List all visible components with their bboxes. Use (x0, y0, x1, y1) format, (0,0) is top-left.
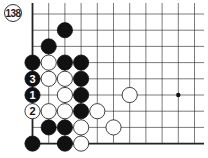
white-stone (57, 87, 72, 102)
move-number: 1 (29, 89, 35, 101)
black-stone (25, 55, 40, 70)
black-stone (57, 23, 72, 38)
black-stone (25, 136, 40, 151)
black-stone (41, 39, 56, 54)
black-stone (41, 120, 56, 135)
white-stone (41, 71, 56, 86)
black-stone (74, 71, 89, 86)
white-stone (57, 71, 72, 86)
black-stone (57, 55, 72, 70)
white-stone (57, 104, 72, 119)
move-number: 3 (29, 73, 35, 85)
white-stone (74, 120, 89, 135)
black-stone (57, 136, 72, 151)
white-stone (74, 136, 89, 151)
white-stone (122, 87, 137, 102)
move-number-badge: 138 (4, 4, 22, 22)
black-stone (57, 120, 72, 135)
black-stone (74, 55, 89, 70)
star-point (176, 93, 180, 97)
white-stone (106, 120, 121, 135)
black-stone (74, 87, 89, 102)
move-number: 2 (29, 105, 35, 117)
go-board: 312 (0, 0, 208, 158)
white-stone (90, 104, 105, 119)
white-stone (41, 104, 56, 119)
black-stone (74, 104, 89, 119)
white-stone (41, 55, 56, 70)
